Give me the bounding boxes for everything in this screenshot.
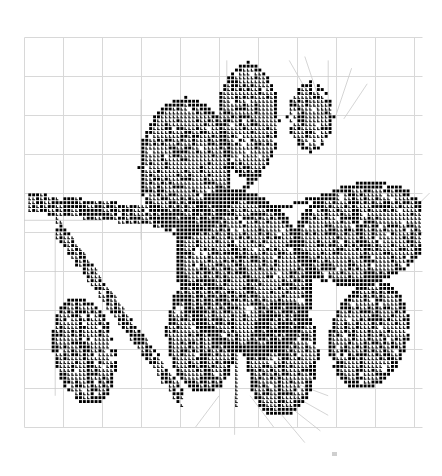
registration-mark bbox=[0, 0, 442, 476]
cross-stitch-chart bbox=[0, 0, 442, 476]
